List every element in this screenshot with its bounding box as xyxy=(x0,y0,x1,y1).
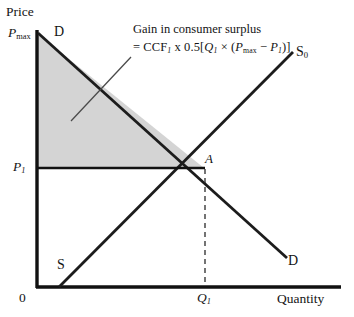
annotation-close: )] xyxy=(282,40,291,54)
consumer-surplus-annotation: Gain in consumer surplus = CCF1 x 0.5[Q1… xyxy=(133,20,291,56)
q1-symbol: Q xyxy=(197,290,207,305)
q1-tick-label: Q1 xyxy=(197,291,211,306)
supply-symbol: S xyxy=(296,44,304,59)
p1-symbol: P xyxy=(13,159,21,174)
annotation-minus: − xyxy=(257,40,271,54)
supply-curve-bottom-label: S xyxy=(57,258,65,272)
annotation-line-1: Gain in consumer surplus xyxy=(133,20,291,38)
supply-curve-top-label: S0 xyxy=(296,45,308,60)
p1-subscript: 1 xyxy=(21,166,25,175)
p1-tick-label: P1 xyxy=(13,160,25,175)
annotation-pmax-symbol: P xyxy=(235,40,243,54)
annotation-line-2: = CCF1 x 0.5[Q1 × (Pmax − P1)] xyxy=(133,38,291,56)
equilibrium-point-label: A xyxy=(205,152,213,165)
p-max-subscript: max xyxy=(16,32,30,41)
supply-subscript: 0 xyxy=(304,50,308,60)
supply-demand-figure: Price Quantity 0 Pmax P1 Q1 D D S S0 A G… xyxy=(0,0,354,317)
quantity-axis-title: Quantity xyxy=(277,292,324,306)
origin-label: 0 xyxy=(19,291,26,305)
annotation-ccf-prefix: = CCF xyxy=(133,40,167,54)
annotation-times: × ( xyxy=(217,40,235,54)
price-axis-title: Price xyxy=(6,5,34,19)
p-max-tick-label: Pmax xyxy=(8,26,31,41)
demand-curve-top-label: D xyxy=(54,25,64,39)
annotation-p1-symbol: P xyxy=(270,40,278,54)
demand-curve-bottom-label: D xyxy=(288,254,298,268)
annotation-mid: x 0.5[ xyxy=(171,40,204,54)
q1-subscript: 1 xyxy=(207,297,211,306)
p-max-symbol: P xyxy=(8,25,16,40)
annotation-pmax-subscript: max xyxy=(243,46,257,55)
